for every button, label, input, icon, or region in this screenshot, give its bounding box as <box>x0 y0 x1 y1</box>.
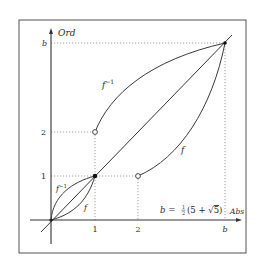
formula-b: b = 1 2 (5 + √5) <box>160 204 222 217</box>
figure-frame <box>19 20 246 253</box>
y-axis-arrow-icon <box>49 28 53 34</box>
diagonal-line <box>41 35 232 232</box>
svg-text:(5 + √5): (5 + √5) <box>187 205 222 215</box>
y-tick-2: 2 <box>41 128 46 137</box>
formula-frac-den: 2 <box>182 210 185 216</box>
diagram-canvas: Ord Abs b 2 1 1 2 b f−1 f f−1 f b = 1 2 … <box>0 0 259 266</box>
formula-frac-num: 1 <box>182 204 185 210</box>
label-f-upper: f <box>180 145 186 155</box>
x-tick-1: 1 <box>93 225 98 234</box>
open-point-1-2 <box>93 130 98 135</box>
point-1-1 <box>93 174 98 179</box>
x-tick-b: b <box>223 225 228 234</box>
label-f-inverse-upper: f−1 <box>101 78 114 90</box>
open-point-2-1 <box>136 174 141 179</box>
x-axis-arrow-icon <box>236 218 242 222</box>
svg-text:b =: b = <box>160 205 175 215</box>
y-axis-label: Ord <box>58 28 76 38</box>
y-tick-b: b <box>42 39 47 48</box>
x-tick-2: 2 <box>136 225 141 234</box>
label-f-lower: f <box>83 203 89 212</box>
point-b-b <box>223 41 227 45</box>
curve-f-upper <box>138 43 225 176</box>
y-tick-1: 1 <box>41 172 46 181</box>
point-origin <box>49 218 52 221</box>
x-axis-label: Abs <box>229 207 244 216</box>
curve-f-inverse-upper <box>95 43 225 132</box>
